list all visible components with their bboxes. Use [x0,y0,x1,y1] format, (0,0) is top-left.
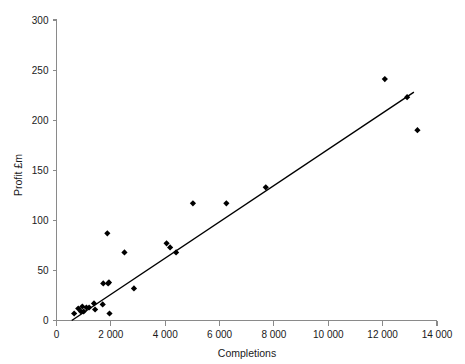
data-point-marker [190,200,196,206]
x-tick-label: 4 000 [153,329,178,340]
data-point-marker [121,249,127,255]
y-tick-label: 150 [32,165,49,176]
y-tick-label: 300 [32,15,49,26]
data-point-marker [163,240,169,246]
x-tick-label: 14 000 [422,329,453,340]
data-point-marker [414,127,420,133]
y-tick-label: 0 [43,315,49,326]
x-tick-group: 02 0004 0006 0008 00010 00012 00014 000 [54,321,453,340]
y-tick-label: 200 [32,115,49,126]
plot-canvas: 050100150200250300 02 0004 0006 0008 000… [0,0,465,364]
y-tick-label: 50 [37,265,49,276]
y-tick-group: 050100150200250300 [32,15,57,327]
data-point-marker [131,285,137,291]
x-axis-title: Completions [218,347,276,359]
data-point-marker [382,76,388,82]
y-tick-label: 250 [32,65,49,76]
axis-lines [57,20,438,321]
data-point-marker [223,200,229,206]
scatter-chart: 050100150200250300 02 0004 0006 0008 000… [0,0,465,364]
x-tick-label: 8 000 [261,329,286,340]
data-point-group [71,76,420,317]
x-tick-label: 6 000 [207,329,232,340]
data-point-marker [71,310,77,316]
y-axis-title: Profit £m [12,154,24,196]
data-point-marker [91,300,97,306]
trend-line [72,92,414,320]
x-tick-label: 0 [54,329,60,340]
data-point-marker [106,310,112,316]
x-tick-label: 12 000 [367,329,398,340]
y-tick-label: 100 [32,215,49,226]
x-tick-label: 10 000 [313,329,344,340]
data-point-marker [100,301,106,307]
x-tick-label: 2 000 [98,329,123,340]
data-point-marker [167,244,173,250]
data-point-marker [104,230,110,236]
data-point-marker [92,306,98,312]
